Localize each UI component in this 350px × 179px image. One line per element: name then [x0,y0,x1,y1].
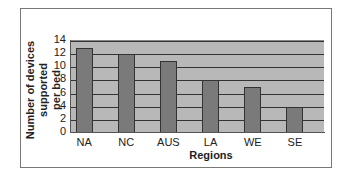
y-tick-label: 8 [48,73,66,84]
x-tick-label: AUS [148,136,188,148]
gridline [71,67,324,68]
x-axis [70,132,325,133]
x-axis-label: Regions [171,149,251,161]
gridline [71,80,324,81]
gridline [71,54,324,55]
x-tick-label: SE [275,136,315,148]
bar-la [202,80,219,133]
y-tick-label: 2 [48,113,66,124]
bar-na [76,48,93,133]
y-axis [70,40,71,133]
x-tick-label: NA [64,136,104,148]
y-tick-label: 12 [48,47,66,58]
bar-nc [118,54,135,133]
plot-area [71,40,324,133]
x-tick-label: NC [106,136,146,148]
y-axis-label-line1: Number of devices supported [24,15,50,165]
bar-we [244,87,261,133]
gridline [71,41,324,42]
y-tick-label: 14 [48,34,66,45]
x-tick-label: LA [191,136,231,148]
y-tick-label: 10 [48,60,66,71]
y-tick-label: 6 [48,87,66,98]
bar-se [286,107,303,133]
y-tick-label: 4 [48,100,66,111]
bar-aus [160,61,177,133]
gridline [71,94,324,95]
x-tick-label: WE [233,136,273,148]
